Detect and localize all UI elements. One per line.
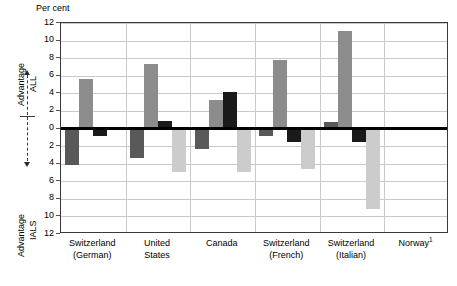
category-label-line1: Norway — [399, 238, 430, 248]
bar — [338, 31, 352, 129]
gridline — [61, 111, 447, 112]
y-tick-label: 8 — [28, 53, 54, 62]
y-tick-label: 10 — [28, 211, 54, 220]
bar — [223, 92, 237, 128]
gridline — [61, 41, 447, 42]
y-tick-mark — [56, 233, 60, 234]
bar — [130, 129, 144, 158]
gridline — [61, 216, 447, 217]
bar — [209, 100, 223, 128]
plot-area — [60, 22, 448, 233]
bar — [287, 129, 301, 142]
bar — [195, 129, 209, 149]
gridline — [61, 181, 447, 182]
category-label-line1: Switzerland — [69, 238, 116, 248]
y-tick-label: 0 — [28, 123, 54, 132]
zero-reference-line — [61, 127, 447, 130]
advantage-ials-line1: Advantage — [16, 214, 26, 257]
gridline — [61, 76, 447, 77]
footnote-marker: 1 — [429, 236, 433, 243]
bar — [144, 64, 158, 128]
gridline — [61, 93, 447, 94]
category-label-line2: (Italian) — [312, 250, 391, 262]
bar — [65, 129, 79, 166]
bar — [352, 129, 366, 142]
y-axis-title: Per cent — [36, 3, 70, 14]
bar — [172, 129, 186, 172]
y-tick-label: 10 — [28, 35, 54, 44]
gridline — [61, 146, 447, 147]
y-tick-label: 6 — [28, 176, 54, 185]
category-label-line1: United — [144, 238, 170, 248]
gridline — [61, 58, 447, 59]
y-tick-label: 6 — [28, 70, 54, 79]
chart-root: Per cent Advantage ALL Advantage IALS 12… — [0, 0, 457, 286]
category-label-line1: Switzerland — [263, 238, 310, 248]
category-label-line2: States — [118, 250, 197, 262]
category-label-line1: Canada — [206, 238, 238, 248]
bar — [79, 79, 93, 128]
bar — [301, 129, 315, 169]
gridline — [61, 199, 447, 200]
y-tick-label: 2 — [28, 105, 54, 114]
category-label-line1: Switzerland — [328, 238, 375, 248]
y-tick-label: 4 — [28, 158, 54, 167]
y-tick-label: 4 — [28, 88, 54, 97]
bar — [273, 60, 287, 129]
y-tick-label: 12 — [28, 18, 54, 27]
gridline — [61, 164, 447, 165]
bar — [237, 129, 251, 173]
x-axis-category-label: Norway1 — [376, 238, 455, 250]
y-tick-label: 8 — [28, 193, 54, 202]
bar — [366, 129, 380, 209]
y-tick-label: 12 — [28, 229, 54, 238]
y-tick-label: 2 — [28, 141, 54, 150]
advantage-ials-label: Advantage — [16, 214, 27, 257]
gridline — [61, 23, 447, 24]
